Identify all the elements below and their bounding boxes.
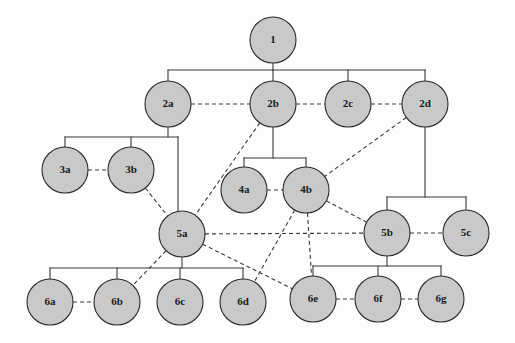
node-label-2b: 2b [267,97,279,109]
node-2a[interactable]: 2a [145,81,191,127]
node-6f[interactable]: 6f [355,276,401,322]
node-label-6g: 6g [436,292,448,304]
node-label-3b: 3b [125,163,137,175]
node-6d[interactable]: 6d [220,279,266,325]
bus-2a-children [65,127,178,147]
node-4a[interactable]: 4a [221,167,267,213]
link-5a-5b [205,233,364,234]
diagram-nodes: 12a2b2c2d3a3b4a4b5a5b5c6a6b6c6d6e6f6g [27,17,489,325]
node-label-2d: 2d [419,97,431,109]
bus-5a-children [50,257,243,279]
bus-2d-children [387,127,466,210]
node-label-5c: 5c [461,226,472,238]
node-label-6a: 6a [45,295,57,307]
link-2d-4b [325,117,407,176]
node-label-1: 1 [270,33,276,45]
node-label-6c: 6c [175,295,186,307]
node-label-5b: 5b [381,226,393,238]
node-3b[interactable]: 3b [108,147,154,193]
node-diagram: 12a2b2c2d3a3b4a4b5a5b5c6a6b6c6d6e6f6g [0,0,515,343]
node-label-6b: 6b [111,295,123,307]
link-4b-6d [254,210,294,282]
link-3b-5a [145,188,167,216]
node-label-6f: 6f [373,292,383,304]
node-5a[interactable]: 5a [159,211,205,257]
node-label-6e: 6e [308,292,319,304]
node-label-5a: 5a [177,227,189,239]
node-6g[interactable]: 6g [418,276,464,322]
bus-2b-children [244,127,306,167]
node-6e[interactable]: 6e [290,276,336,322]
link-4b-6e [307,213,311,276]
bus-5b-children [313,256,441,276]
node-1[interactable]: 1 [250,17,296,63]
node-label-2a: 2a [163,97,175,109]
node-label-2c: 2c [343,97,354,109]
node-label-4a: 4a [239,183,251,195]
node-6b[interactable]: 6b [94,279,140,325]
diagram-canvas: 12a2b2c2d3a3b4a4b5a5b5c6a6b6c6d6e6f6g [0,0,515,343]
node-2c[interactable]: 2c [325,81,371,127]
node-4b[interactable]: 4b [283,167,329,213]
node-5b[interactable]: 5b [364,210,410,256]
node-6a[interactable]: 6a [27,279,73,325]
link-4b-5b [326,201,366,222]
node-label-4b: 4b [300,183,312,195]
node-label-6d: 6d [237,295,249,307]
node-2d[interactable]: 2d [402,81,448,127]
node-5c[interactable]: 5c [443,210,489,256]
node-label-3a: 3a [60,163,72,175]
node-2b[interactable]: 2b [250,81,296,127]
node-3a[interactable]: 3a [42,147,88,193]
node-6c[interactable]: 6c [157,279,203,325]
bus-1-children [168,63,425,81]
